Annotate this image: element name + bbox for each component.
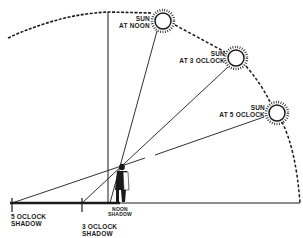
label-five-oclock-shadow: 5 OCLOCK SHADOW xyxy=(11,213,71,227)
label-sun-noon: SUN AT NOON xyxy=(108,15,150,29)
sun-noon-icon xyxy=(152,10,174,32)
label-sun-three: SUN AT 3 OCLOCK xyxy=(170,50,225,64)
sun-five-icon xyxy=(266,102,288,124)
label-noon-shadow: NOON SHADOW xyxy=(106,207,134,217)
label-sun-five: SUN AT 5 OCLOCK xyxy=(205,104,265,118)
label-three-oclock-shadow: 3 OCLOCK SHADOW xyxy=(82,223,142,237)
ray-five xyxy=(12,117,264,203)
sun-three-icon xyxy=(225,47,247,69)
ray-three xyxy=(82,67,228,203)
sun-shadow-diagram xyxy=(0,0,303,238)
person-figure xyxy=(115,164,129,202)
